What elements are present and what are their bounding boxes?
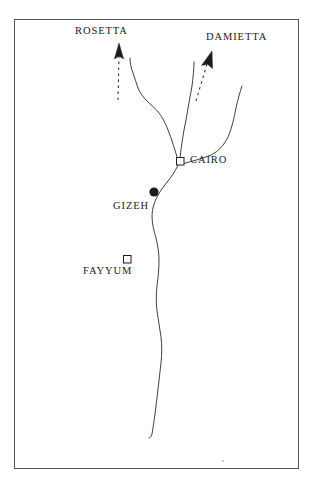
map-figure: ROSETTA DAMIETTA CAIRO GIZEH FAYYUM [0,0,318,490]
gizeh-marker-dot-icon [149,187,158,196]
label-cairo: CAIRO [190,155,227,166]
scan-speck [222,460,223,461]
fayyum-marker-square-icon [124,256,132,264]
map-canvas [0,0,318,490]
label-fayyum: FAYYUM [83,266,132,277]
label-rosetta: ROSETTA [75,26,128,37]
label-damietta: DAMIETTA [206,32,267,43]
cairo-marker-square-icon [177,158,185,166]
map-background [0,0,318,490]
label-gizeh: GIZEH [113,201,149,212]
